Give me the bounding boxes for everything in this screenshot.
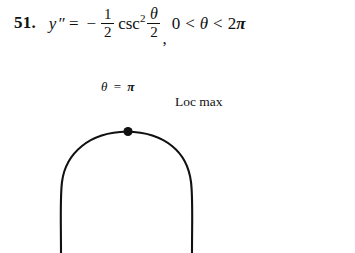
domain-less-than-first: < — [180, 15, 200, 32]
minus-operator: − — [84, 15, 100, 32]
pi-symbol: π — [127, 79, 134, 94]
equals-operator: = — [64, 15, 84, 32]
equation-comma: , — [162, 30, 171, 47]
domain-variable-theta: θ — [200, 15, 208, 32]
domain-less-than-second: < — [208, 15, 228, 32]
problem-statement: 51. y ″ = − 1 2 csc 2 θ 2 , 0 < θ < — [14, 6, 245, 40]
domain-upper-pi: π — [236, 15, 245, 32]
coefficient-denominator: 2 — [102, 24, 114, 40]
page-canvas: 51. y ″ = − 1 2 csc 2 θ 2 , 0 < θ < — [0, 0, 355, 253]
dependent-variable: y — [49, 15, 58, 32]
equation: y ″ = − 1 2 csc 2 θ 2 , 0 < θ < 2 π — [49, 6, 246, 40]
domain-upper-coefficient: 2 — [228, 15, 237, 32]
local-max-dot — [123, 127, 132, 136]
argument-numerator-theta: θ — [148, 6, 160, 23]
loc-max-annotation: Loc max — [175, 94, 223, 110]
label-equals: = — [111, 79, 124, 94]
coefficient-numerator: 1 — [102, 7, 114, 23]
coefficient-fraction: 1 2 — [101, 7, 114, 40]
arch-curve — [61, 132, 193, 253]
cosecant-exponent: 2 — [140, 13, 146, 24]
theta-equals-pi-label: θ = π — [101, 79, 134, 95]
problem-number: 51. — [14, 13, 36, 33]
second-derivative-primes: ″ — [57, 15, 64, 32]
domain-lower-bound: 0 — [172, 15, 181, 32]
argument-fraction: θ 2 — [147, 6, 160, 40]
cosecant-function-name: csc — [116, 15, 140, 32]
argument-denominator: 2 — [148, 24, 160, 40]
curve-figure: θ = π Loc max — [0, 70, 355, 253]
theta-symbol: θ — [101, 79, 107, 94]
